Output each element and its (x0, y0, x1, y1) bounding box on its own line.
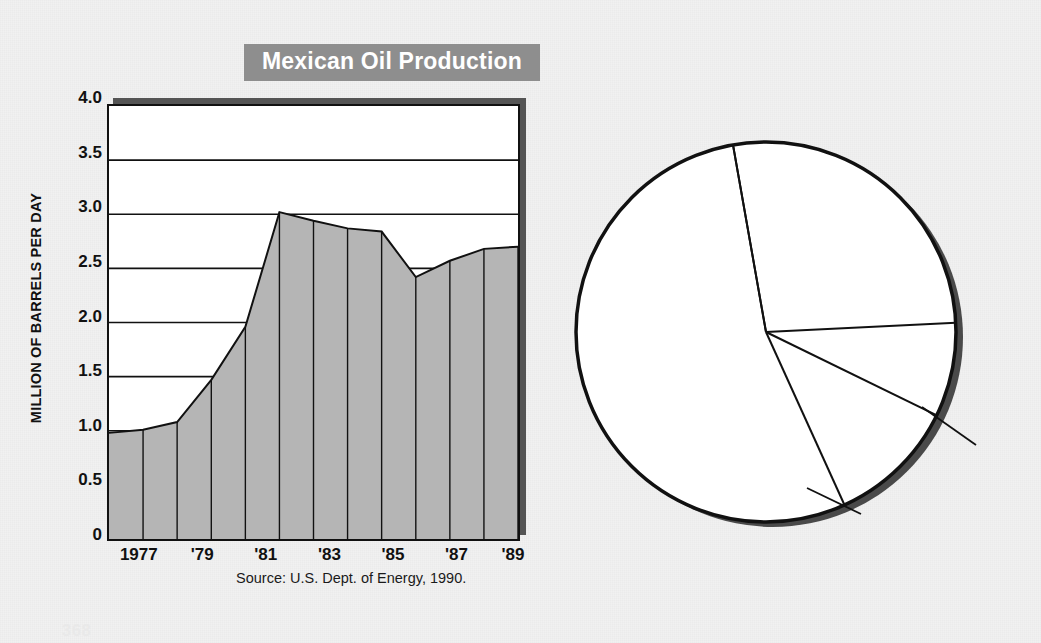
x-tick-81: '81 (254, 545, 277, 565)
x-tick-89: '89 (502, 545, 525, 565)
left-chart-title: Mexican Oil Production (244, 44, 540, 81)
area-chart-svg (109, 106, 518, 539)
y-tick-0: 0 (93, 525, 102, 545)
page-number: 368 (62, 622, 92, 640)
economic-areas-chart-panel: Mexico's Major Economic Areas, Late 1980… (560, 0, 1041, 643)
oil-production-chart-panel: Mexican Oil Production MILLION OF BARREL… (0, 0, 560, 643)
left-chart-source: Source: U.S. Dept. of Energy, 1990. (236, 570, 466, 586)
y-tick-3-5: 3.5 (78, 143, 102, 163)
pie-chart (570, 110, 970, 550)
y-tick-1-0: 1.0 (78, 416, 102, 436)
pie-chart-svg (570, 110, 970, 550)
y-axis-tick-labels: 4.0 3.5 3.0 2.5 2.0 1.5 1.0 0.5 0 (28, 98, 102, 535)
x-axis-tick-labels: 1977 '79 '81 '83 '85 '87 '89 (107, 545, 520, 571)
y-tick-2-5: 2.5 (78, 252, 102, 272)
y-tick-2-0: 2.0 (78, 307, 102, 327)
x-tick-85: '85 (381, 545, 404, 565)
x-tick-1977: 1977 (120, 545, 158, 565)
y-tick-3-0: 3.0 (78, 197, 102, 217)
x-tick-83: '83 (318, 545, 341, 565)
y-tick-4-0: 4.0 (78, 88, 102, 108)
plot-area (107, 104, 520, 541)
x-tick-79: '79 (191, 545, 214, 565)
y-tick-1-5: 1.5 (78, 361, 102, 381)
y-tick-0-5: 0.5 (78, 470, 102, 490)
x-tick-87: '87 (445, 545, 468, 565)
